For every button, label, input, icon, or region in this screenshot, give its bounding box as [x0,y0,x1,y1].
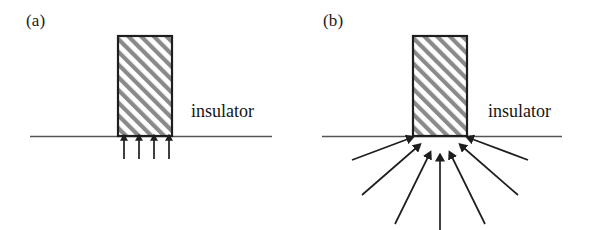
panel-b-arrow [472,139,528,160]
panel-a-electrode [118,36,172,136]
panel-b-drawing [296,0,593,230]
figure-root: (a) insulator [0,0,593,230]
panel-b-arrow [395,157,428,224]
panel-a-drawing [0,0,296,230]
panel-b: (b) insulator [296,0,593,230]
panel-a: (a) insulator [0,0,296,230]
panel-b-arrow [352,139,408,160]
panel-a-arrow-group [124,140,169,160]
panel-b-arrow [452,157,485,224]
panel-b-arrow [464,148,518,195]
panel-b-arrow-group [352,139,528,230]
panel-b-arrow [362,148,416,195]
panel-b-electrode [413,36,467,136]
